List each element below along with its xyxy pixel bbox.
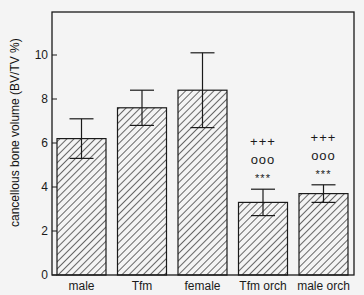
bar-tfm	[118, 108, 167, 275]
x-tick-label: Tfm orch	[239, 279, 286, 293]
significance-marker: +++	[250, 134, 276, 149]
significance-marker: ooo	[251, 152, 276, 167]
significance-marker: ooo	[311, 148, 336, 163]
significance-marker: +++	[311, 130, 337, 145]
y-tick-label: 0	[41, 268, 48, 282]
x-tick-label: male	[68, 279, 94, 293]
bar-chart: 0246810 maleTfmfemaleTfm orchmale orch *…	[0, 0, 364, 295]
bars	[57, 53, 348, 275]
bar-male-orch	[299, 194, 348, 275]
bar-male	[57, 139, 106, 275]
y-tick-label: 6	[41, 136, 48, 150]
y-tick-label: 10	[35, 48, 49, 62]
y-axis-label: cancellous bone volume (BV/TV %)	[8, 57, 22, 227]
y-tick-label: 2	[41, 224, 48, 238]
x-tick-label: female	[184, 279, 220, 293]
x-tick-label: male orch	[297, 279, 350, 293]
significance-marker: ***	[316, 168, 332, 180]
y-tick-label: 8	[41, 92, 48, 106]
significance-marker: ***	[255, 172, 271, 184]
significance-annotations: ***ooo+++***ooo+++	[250, 130, 336, 184]
x-tick-label: Tfm	[132, 279, 153, 293]
x-axis-labels: maleTfmfemaleTfm orchmale orch	[68, 279, 349, 293]
y-tick-label: 4	[41, 180, 48, 194]
y-axis-ticks: 0246810	[35, 48, 57, 282]
